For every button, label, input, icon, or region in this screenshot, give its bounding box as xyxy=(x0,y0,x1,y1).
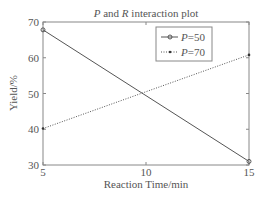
legend-label-p50: P=50 xyxy=(180,31,205,43)
dot-marker-icon xyxy=(42,127,45,130)
y-tick-label: 40 xyxy=(28,123,40,135)
series-line-P70 xyxy=(43,55,249,129)
data-series xyxy=(41,28,251,164)
x-axis-label: Reaction Time/min xyxy=(104,178,189,190)
axis-ticks xyxy=(43,22,249,165)
chart-title: P and R interaction plot xyxy=(93,7,199,19)
y-tick-label: 60 xyxy=(28,52,40,64)
plot-area-frame xyxy=(43,22,249,165)
interaction-plot: P and R interaction plot 304050607051015… xyxy=(0,0,260,202)
x-tick-label: 15 xyxy=(244,166,256,178)
legend-label-p70: P=70 xyxy=(180,46,205,58)
y-axis-label: Yield/% xyxy=(7,75,19,111)
legend: P=50 P=70 xyxy=(156,27,212,61)
dot-marker-icon xyxy=(248,54,251,57)
title-rest: interaction plot xyxy=(129,7,199,19)
y-tick-label: 30 xyxy=(28,159,40,171)
title-and: and xyxy=(100,7,121,19)
y-tick-label: 50 xyxy=(28,88,40,100)
x-tick-label: 10 xyxy=(141,166,153,178)
series-line-P50 xyxy=(43,30,249,162)
axis-tick-labels: 304050607051015 xyxy=(28,16,255,178)
x-tick-label: 5 xyxy=(40,166,46,178)
legend-dot-marker-icon xyxy=(169,51,171,53)
y-tick-label: 70 xyxy=(28,16,40,28)
